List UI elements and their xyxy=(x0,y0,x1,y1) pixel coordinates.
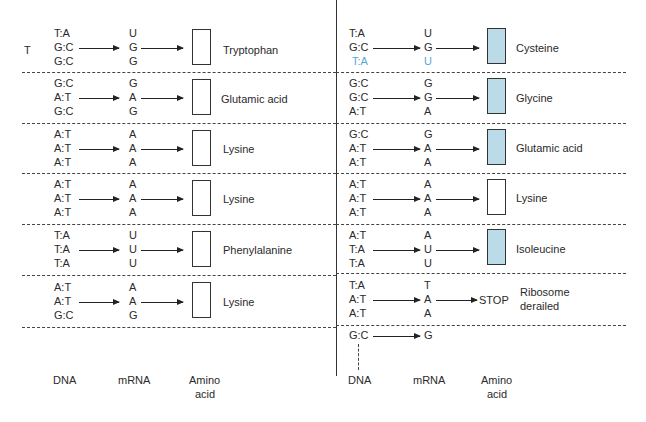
arrow-icon xyxy=(141,250,183,251)
ribosome-note: Ribosome xyxy=(520,286,570,299)
dna-pair: T:A xyxy=(349,279,365,292)
dna-pair: T:A xyxy=(54,229,70,242)
dna-pair: A:T xyxy=(349,229,366,242)
dna-pair: G:C xyxy=(54,105,74,118)
amino-acid-label: Glycine xyxy=(516,92,553,105)
mrna-base: A xyxy=(129,142,136,155)
arrow-icon xyxy=(141,98,183,99)
amino-acid-label: Cysteine xyxy=(516,42,559,55)
panel-divider xyxy=(336,0,337,376)
row-divider xyxy=(22,173,336,174)
dna-pair: G:C xyxy=(349,41,369,54)
mrna-base: A xyxy=(129,156,136,169)
arrow-icon xyxy=(141,48,183,49)
row-divider xyxy=(22,224,336,225)
arrow-icon xyxy=(79,250,119,251)
arrow-icon xyxy=(436,300,477,301)
row-divider xyxy=(336,72,626,73)
dna-pair: A:T xyxy=(54,142,71,155)
amino-acid-box xyxy=(487,28,506,64)
column-label-acid: acid xyxy=(487,388,507,401)
derailed-note: derailed xyxy=(520,300,559,313)
mrna-base: G xyxy=(129,41,138,54)
dna-pair: A:T xyxy=(54,192,71,205)
arrow-icon xyxy=(436,98,479,99)
dna-pair: A:T xyxy=(54,206,71,219)
arrow-icon xyxy=(436,199,479,200)
arrow-icon xyxy=(373,336,420,337)
arrow-icon xyxy=(373,149,420,150)
arrow-icon xyxy=(79,48,119,49)
arrow-icon xyxy=(141,149,183,150)
dna-pair: G:C xyxy=(54,309,74,322)
strand-continuation xyxy=(358,344,359,370)
mrna-base: U xyxy=(129,243,137,256)
amino-acid-label: Glutamic acid xyxy=(516,142,583,155)
dna-pair: T:A xyxy=(349,243,365,256)
amino-acid-box xyxy=(487,229,506,265)
dna-pair: T:A xyxy=(54,27,70,40)
mrna-base: G xyxy=(129,55,138,68)
dna-pair: A:T xyxy=(349,105,366,118)
mrna-base: A xyxy=(424,142,431,155)
arrow-icon xyxy=(79,98,119,99)
mrna-base: G xyxy=(424,77,433,90)
mutated-mrna-base: U xyxy=(424,55,432,68)
mrna-base: G xyxy=(129,105,138,118)
mrna-base: A xyxy=(424,307,431,320)
amino-acid-box xyxy=(192,29,211,65)
dna-pair: A:T xyxy=(54,156,71,169)
row-divider xyxy=(336,325,626,326)
dna-pair: A:T xyxy=(349,307,366,320)
mrna-base: A xyxy=(129,91,136,104)
mrna-base: A xyxy=(424,192,431,205)
dna-pair: G:C xyxy=(349,91,369,104)
arrow-icon xyxy=(436,48,479,49)
column-label-acid: acid xyxy=(195,388,215,401)
mrna-base: U xyxy=(424,243,432,256)
dna-pair: A:T xyxy=(349,142,366,155)
row-divider xyxy=(22,327,336,328)
dna-pair: T:A xyxy=(54,243,70,256)
dna-pair: A:T xyxy=(54,295,71,308)
amino-acid-box xyxy=(487,179,506,215)
dna-pair: G:C xyxy=(54,77,74,90)
mrna-base: A xyxy=(424,229,431,242)
arrow-icon xyxy=(141,199,183,200)
dna-pair: A:T xyxy=(349,206,366,219)
arrow-icon xyxy=(79,149,119,150)
amino-acid-label: Lysine xyxy=(516,192,547,205)
arrow-icon xyxy=(373,199,420,200)
mrna-base: A xyxy=(129,178,136,191)
dna-pair: A:T xyxy=(349,293,366,306)
mrna-base: A xyxy=(424,105,431,118)
dna-pair: T:A xyxy=(54,257,70,270)
mrna-base: A xyxy=(129,295,136,308)
dna-pair: G:C xyxy=(54,41,74,54)
amino-acid-box xyxy=(192,130,211,166)
amino-acid-label: Phenylalanine xyxy=(223,244,292,257)
column-label-mrna: mRNA xyxy=(413,374,445,387)
dna-pair: A:T xyxy=(54,128,71,141)
mrna-base: U xyxy=(129,257,137,270)
dna-pair: G:C xyxy=(349,128,369,141)
mrna-base: G xyxy=(129,309,138,322)
dna-pair: T:A xyxy=(349,257,365,270)
row-divider xyxy=(336,173,626,174)
mrna-base: G xyxy=(424,41,433,54)
mrna-base: A xyxy=(129,128,136,141)
dna-pair: A:T xyxy=(54,178,71,191)
amino-acid-box xyxy=(192,282,211,318)
arrow-icon xyxy=(373,48,420,49)
column-label-amino: Amino xyxy=(481,374,512,387)
amino-acid-label: Glutamic acid xyxy=(221,93,288,106)
arrow-icon xyxy=(373,98,420,99)
column-label-amino: Amino xyxy=(189,374,220,387)
side-label: T xyxy=(24,44,31,57)
arrow-icon xyxy=(373,300,420,301)
amino-acid-label: Lysine xyxy=(223,296,254,309)
dna-pair: A:T xyxy=(54,281,71,294)
mrna-base: A xyxy=(424,156,431,169)
amino-acid-label: Lysine xyxy=(223,143,254,156)
column-label-dna: DNA xyxy=(53,374,76,387)
